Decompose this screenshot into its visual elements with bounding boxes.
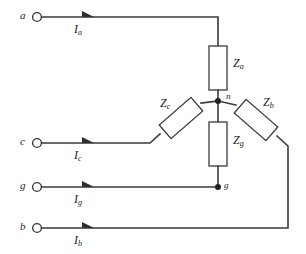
- impedance-symbol-zg: Z: [233, 133, 240, 147]
- node-label-g: g: [224, 181, 229, 190]
- impedance-zg-symbol: [209, 122, 227, 166]
- impedance-za-symbol: [209, 46, 227, 90]
- impedance-subscript-zb: b: [270, 101, 274, 110]
- impedance-symbol-za: Z: [233, 56, 240, 70]
- circuit-schematic-svg: [0, 0, 306, 254]
- terminal-c-circle[interactable]: [33, 139, 42, 148]
- terminal-label-c: c: [20, 136, 25, 147]
- terminal-b-circle[interactable]: [33, 224, 42, 233]
- current-label-ig: Ig: [74, 193, 82, 207]
- terminal-label-g: g: [20, 180, 26, 191]
- impedance-symbol-zb: Z: [263, 95, 270, 109]
- impedance-label-za: Za: [233, 57, 244, 71]
- current-label-ib: Ib: [74, 234, 82, 248]
- current-arrow-ia: [82, 11, 94, 17]
- current-label-ic: Ic: [74, 149, 82, 163]
- node-n-dot: [215, 98, 221, 104]
- current-subscript-ic: c: [78, 154, 82, 163]
- terminal-a-circle[interactable]: [33, 13, 42, 22]
- phase-a-wire: [42, 17, 218, 46]
- impedance-subscript-zg: g: [240, 139, 244, 148]
- impedance-label-zg: Zg: [233, 134, 244, 148]
- impedance-label-zc: Zc: [160, 97, 170, 111]
- current-subscript-ia: a: [78, 28, 82, 37]
- current-arrow-ib: [82, 222, 94, 228]
- terminal-g-circle[interactable]: [33, 183, 42, 192]
- terminal-label-b: b: [20, 221, 26, 232]
- impedance-subscript-za: a: [240, 62, 244, 71]
- node-g-dot: [215, 184, 221, 190]
- impedance-label-zb: Zb: [263, 96, 274, 110]
- circuit-diagram: a c g b Ia Ic Ig Ib Za Zb Zc Zg n g: [0, 0, 306, 254]
- node-label-n: n: [226, 92, 231, 101]
- current-subscript-ib: b: [78, 239, 82, 248]
- current-arrow-ig: [82, 181, 94, 187]
- current-label-ia: Ia: [74, 23, 82, 37]
- terminal-label-a: a: [20, 10, 26, 21]
- current-subscript-ig: g: [78, 198, 82, 207]
- impedance-symbol-zc: Z: [160, 96, 167, 110]
- current-arrow-ic: [82, 137, 94, 143]
- phase-c-wire: [42, 134, 160, 143]
- impedance-subscript-zc: c: [167, 102, 171, 111]
